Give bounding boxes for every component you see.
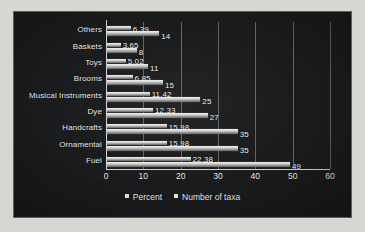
x-tick-label: 10	[139, 171, 148, 181]
value-label-number-of-taxa: 35	[240, 130, 249, 139]
bar-number-of-taxa	[107, 129, 238, 134]
value-label-number-of-taxa: 25	[202, 97, 211, 106]
x-tick-label: 0	[104, 171, 109, 181]
category-label: Fuel	[86, 156, 102, 165]
bar-number-of-taxa	[107, 80, 163, 85]
square-marker-icon	[174, 194, 178, 198]
plot-area: 6.39143.6585.02116.851511.422512.332715.…	[106, 22, 330, 169]
x-tick-label: 60	[325, 171, 334, 181]
value-label-number-of-taxa: 8	[139, 48, 144, 57]
legend-item-percent: Percent	[125, 192, 162, 202]
bar-percent	[107, 141, 167, 145]
category-axis: OthersBasketsToysBroomsMusical Instrumen…	[18, 22, 104, 169]
legend-label: Percent	[133, 192, 162, 202]
square-marker-icon	[125, 194, 129, 198]
bar-percent	[107, 43, 121, 47]
chart-legend: Percent Number of taxa	[14, 192, 351, 202]
gridline	[293, 22, 294, 169]
x-tick-labels: 0102030405060	[106, 171, 330, 183]
bar-percent	[107, 59, 126, 63]
gridline	[255, 22, 256, 169]
value-label-number-of-taxa: 15	[165, 81, 174, 90]
bar-number-of-taxa	[107, 64, 148, 69]
value-label-number-of-taxa: 11	[150, 64, 159, 73]
bar-number-of-taxa	[107, 146, 238, 151]
value-label-number-of-taxa: 27	[210, 113, 219, 122]
category-label: Others	[77, 25, 102, 34]
chart-card: OthersBasketsToysBroomsMusical Instrumen…	[13, 11, 352, 218]
bar-percent	[107, 157, 191, 161]
bar-number-of-taxa	[107, 162, 290, 167]
x-tick-label: 20	[176, 171, 185, 181]
bar-percent	[107, 92, 150, 96]
bar-number-of-taxa	[107, 97, 200, 102]
bar-percent	[107, 26, 131, 30]
legend-item-number-of-taxa: Number of taxa	[174, 192, 240, 202]
value-label-number-of-taxa: 14	[161, 32, 170, 41]
x-tick-label: 30	[213, 171, 222, 181]
bar-percent	[107, 108, 153, 112]
bar-number-of-taxa	[107, 113, 208, 118]
category-label: Brooms	[74, 74, 102, 83]
x-tick-label: 40	[251, 171, 260, 181]
bar-number-of-taxa	[107, 48, 137, 53]
category-label: Dye	[87, 107, 102, 116]
x-tick-label: 50	[288, 171, 297, 181]
bar-percent	[107, 124, 167, 128]
category-label: Toys	[85, 58, 102, 67]
value-label-number-of-taxa: 35	[240, 146, 249, 155]
bar-number-of-taxa	[107, 31, 159, 36]
bar-percent	[107, 75, 133, 79]
figure-root: OthersBasketsToysBroomsMusical Instrumen…	[0, 0, 365, 232]
category-label: Baskets	[73, 42, 102, 51]
category-label: Ornamental	[59, 140, 102, 149]
category-label: Musical Instruments	[29, 91, 102, 100]
category-label: Handcrafts	[62, 123, 102, 132]
gridline	[330, 22, 331, 169]
legend-label: Number of taxa	[182, 192, 240, 202]
